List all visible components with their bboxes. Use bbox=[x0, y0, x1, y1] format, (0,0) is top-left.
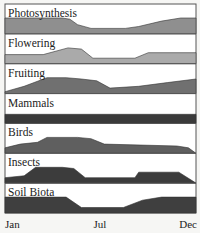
area-mammals bbox=[5, 114, 196, 123]
x-tick-jan: Jan bbox=[5, 218, 20, 230]
label-soil-biota: Soil Biota bbox=[8, 186, 54, 198]
label-birds: Birds bbox=[8, 126, 33, 138]
x-axis: Jan Jul Dec bbox=[5, 218, 197, 230]
label-photosynthesis: Photosynthesis bbox=[8, 7, 78, 20]
x-tick-dec: Dec bbox=[179, 218, 197, 230]
label-flowering: Flowering bbox=[8, 37, 56, 50]
label-fruiting: Fruiting bbox=[8, 67, 45, 80]
label-insects: Insects bbox=[8, 156, 40, 168]
x-tick-jul: Jul bbox=[94, 218, 107, 230]
seasonal-activity-chart: PhotosynthesisFloweringFruitingMammalsBi… bbox=[0, 0, 200, 233]
label-mammals: Mammals bbox=[8, 97, 55, 109]
